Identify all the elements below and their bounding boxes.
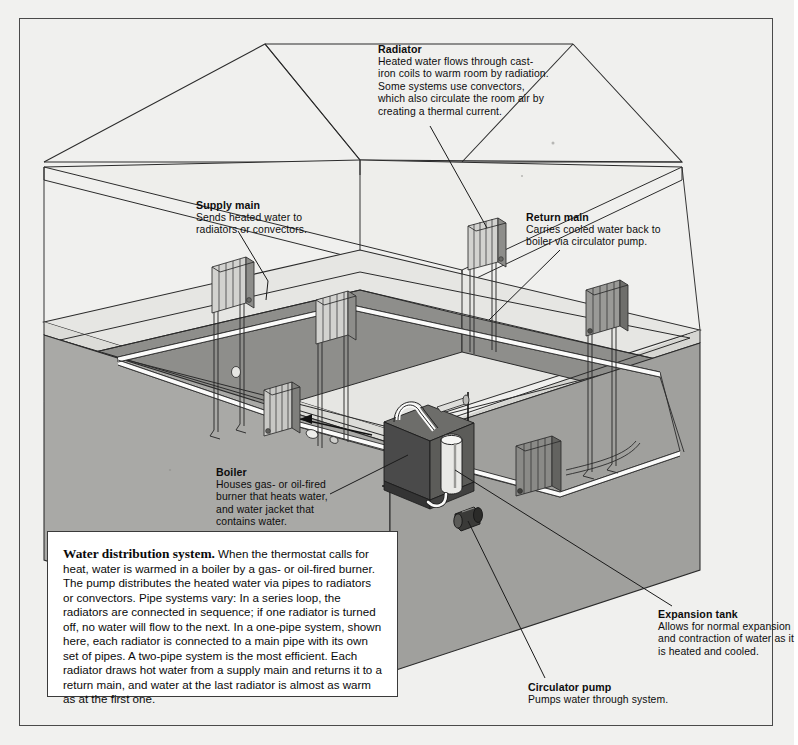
callout-boiler-heading: Boiler [216, 466, 376, 478]
callout-radiator: Radiator Heated water flows through cast… [378, 43, 588, 118]
caption-panel: Water distribution system. When the ther… [47, 531, 398, 697]
callout-radiator-heading: Radiator [378, 43, 588, 55]
callout-boiler-body: Houses gas- or oil-fired burner that hea… [216, 479, 376, 529]
callout-circulator-pump-body: Pumps water through system. [528, 694, 728, 706]
callout-return-main-heading: Return main [526, 211, 716, 223]
radiator-mid-left [316, 291, 356, 344]
callout-supply-main: Supply main Sends heated water to radiat… [196, 199, 376, 237]
callout-return-main-body: Carries cooled water back to boiler via … [526, 224, 716, 249]
radiator-upper-center [468, 218, 506, 270]
callout-expansion-tank: Expansion tank Allows for normal expansi… [658, 608, 798, 658]
caption-text: Water distribution system. When the ther… [63, 547, 384, 707]
caption-lead: Water distribution system. [63, 546, 215, 561]
callout-supply-main-heading: Supply main [196, 199, 376, 211]
callout-expansion-tank-heading: Expansion tank [658, 608, 798, 620]
caption-body: When the thermostat calls for heat, wate… [63, 547, 382, 705]
callout-boiler: Boiler Houses gas- or oil-fired burner t… [216, 466, 376, 529]
callout-expansion-tank-body: Allows for normal expansion and contract… [658, 621, 798, 658]
callout-return-main: Return main Carries cooled water back to… [526, 211, 716, 249]
radiator-basement-right [516, 436, 561, 496]
callout-radiator-body: Heated water flows through cast- iron co… [378, 56, 588, 118]
callout-supply-main-body: Sends heated water to radiators or conve… [196, 212, 376, 237]
radiator-basement-left [264, 382, 300, 436]
callout-circulator-pump: Circulator pump Pumps water through syst… [528, 681, 728, 706]
callout-circulator-pump-heading: Circulator pump [528, 681, 728, 693]
